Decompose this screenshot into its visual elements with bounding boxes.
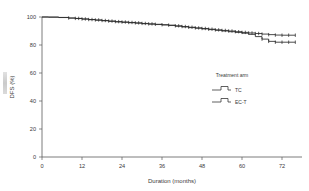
y-tick-label: 20 <box>30 126 36 132</box>
plot-axes <box>42 17 302 157</box>
legend-label-ect: EC-T <box>235 99 247 105</box>
scan-edge-artifact <box>3 72 7 94</box>
legend-entry-tc[interactable]: TC <box>212 87 242 93</box>
y-axis-title: DFS (%) <box>9 76 15 99</box>
censor-marks-ect <box>262 37 295 43</box>
x-tick-label: 24 <box>119 163 125 169</box>
legend-marker-tc <box>212 87 231 91</box>
x-tick-label: 72 <box>279 163 285 169</box>
y-tick-label: 40 <box>30 98 36 104</box>
curve-ect <box>42 17 295 42</box>
survival-plot-canvas: 020406080100 0122436486072 Duration (mon… <box>0 0 309 191</box>
y-axis-ticks: 020406080100 <box>27 14 42 160</box>
legend-title: Treatment arm <box>216 72 249 78</box>
x-tick-label: 60 <box>239 163 245 169</box>
y-tick-label: 60 <box>30 70 36 76</box>
y-tick-label: 80 <box>30 42 36 48</box>
x-tick-label: 48 <box>199 163 205 169</box>
x-tick-label: 12 <box>79 163 85 169</box>
x-axis-title: Duration (months) <box>148 178 196 184</box>
kaplan-meier-figure: 020406080100 0122436486072 Duration (mon… <box>0 0 309 191</box>
x-tick-label: 36 <box>159 163 165 169</box>
series-group <box>42 16 295 44</box>
legend-marker-ect <box>212 99 231 103</box>
legend-entry-ect[interactable]: EC-T <box>212 99 247 105</box>
y-tick-label: 0 <box>33 154 36 160</box>
x-axis-ticks: 0122436486072 <box>40 157 285 169</box>
legend-label-tc: TC <box>235 87 242 93</box>
y-tick-label: 100 <box>27 14 36 20</box>
x-tick-label: 0 <box>40 163 43 169</box>
legend: Treatment arm TC EC-T <box>212 72 248 105</box>
